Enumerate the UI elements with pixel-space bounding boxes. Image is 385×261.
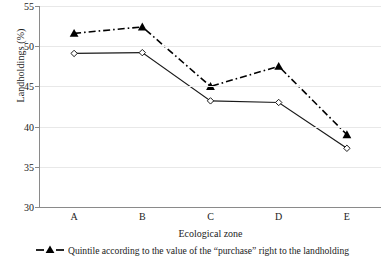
y-axis-tick [35, 6, 40, 7]
x-axis-tick-label: E [327, 211, 367, 222]
y-axis-tick-label: 40 [2, 121, 34, 132]
y-axis-tick [35, 127, 40, 128]
y-axis-tick [35, 46, 40, 47]
line-chart: Landholdings (%) 303540455055 ABCDE Ecol… [0, 0, 385, 261]
legend-item: Quintile according to the value of the “… [36, 244, 349, 256]
x-axis-tick-label: A [54, 211, 94, 222]
y-axis-tick-label: 50 [2, 41, 34, 52]
x-axis-tick-label: B [122, 211, 162, 222]
data-point-marker [274, 62, 283, 70]
y-axis-tick [35, 86, 40, 87]
y-axis-tick-label: 30 [2, 202, 34, 213]
gridline [40, 127, 381, 128]
y-axis-tick-labels: 303540455055 [0, 6, 34, 207]
y-axis-tick [35, 207, 40, 208]
data-point-marker [138, 23, 147, 31]
series-layer [40, 6, 381, 207]
gridline [40, 46, 381, 47]
y-axis-tick-label: 45 [2, 81, 34, 92]
y-axis-tick-label: 55 [2, 1, 34, 12]
gridline [40, 6, 381, 7]
legend-item-label: Quintile according to the value of the “… [68, 245, 349, 256]
chart-legend: Quintile according to the value of the “… [0, 244, 385, 256]
series-line [74, 27, 347, 135]
legend-marker-triangle-icon [36, 244, 64, 256]
x-axis-title: Ecological zone [40, 228, 381, 239]
data-point-marker [344, 145, 350, 151]
plot-area [40, 6, 381, 207]
x-axis-line [40, 207, 381, 208]
y-axis-tick [35, 167, 40, 168]
x-axis-tick-label: D [259, 211, 299, 222]
gridline [40, 167, 381, 168]
gridline [40, 86, 381, 87]
data-point-marker [71, 50, 77, 56]
data-point-marker [276, 99, 282, 105]
y-axis-tick-label: 35 [2, 161, 34, 172]
x-axis-tick-label: C [191, 211, 231, 222]
